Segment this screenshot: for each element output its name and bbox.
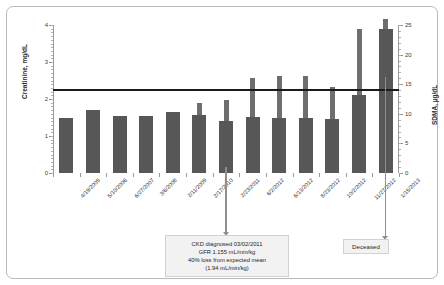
y-tick-minor-right [399, 43, 401, 44]
y-tick-minor-left [51, 103, 53, 104]
y-axis-right-title: SDMA, µg/dL [431, 85, 438, 125]
y-tick-minor-left [51, 44, 53, 45]
bar-creatinine [299, 118, 313, 174]
y-tick-minor-left [51, 143, 53, 144]
y-tick-minor-right [399, 31, 401, 32]
x-tick [159, 173, 160, 177]
y-tick-minor-right [399, 108, 401, 109]
y-tick-minor-left [51, 106, 53, 107]
y-tick-minor-right [399, 84, 401, 85]
y-tick-minor-left [51, 147, 53, 148]
x-tick [346, 173, 347, 177]
y-tick-minor-left [51, 166, 53, 167]
x-axis-label: 5/10/2006 [106, 177, 128, 199]
y-tick-minor-right [399, 61, 401, 62]
y-tick-label-right: 20 [405, 52, 425, 58]
y-tick-label-right: 5 [405, 140, 425, 146]
y-tick-minor-right [399, 161, 401, 162]
y-tick-minor-left [51, 55, 53, 56]
y-tick-minor-right [399, 167, 401, 168]
y-tick-label-right: 0 [405, 170, 425, 176]
y-tick-minor-right [399, 72, 401, 73]
y-tick-minor-right [399, 49, 401, 50]
bar-creatinine [86, 110, 100, 173]
x-tick [266, 173, 267, 177]
x-tick [293, 173, 294, 177]
annotation-deceased: Deceased [343, 239, 389, 254]
x-tick [372, 173, 373, 177]
y-tick-label-left: 0 [28, 170, 48, 176]
x-tick [399, 173, 400, 177]
y-tick-minor-left [51, 25, 53, 26]
y-tick-minor-left [51, 110, 53, 111]
bar-creatinine [272, 118, 286, 174]
y-tick-minor-left [51, 51, 53, 52]
x-tick [80, 173, 81, 177]
y-tick-minor-left [51, 58, 53, 59]
y-tick-minor-left [51, 77, 53, 78]
x-tick [133, 173, 134, 177]
bar-creatinine [192, 115, 206, 173]
x-axis-label: 3/6/2008 [159, 177, 179, 197]
x-tick [319, 173, 320, 177]
annotation-line: GFR 1.155 mL/min/kg [199, 248, 256, 256]
y-tick-minor-left [51, 69, 53, 70]
y-tick-minor-left [51, 36, 53, 37]
reference-line [53, 89, 399, 91]
chart-frame: SDMA increased 8 mo before creatinine Cr… [6, 6, 438, 279]
y-tick-label-left: 4 [28, 22, 48, 28]
y-axis-left-line [53, 25, 54, 173]
y-tick-minor-left [51, 73, 53, 74]
y-tick-minor-left [51, 95, 53, 96]
y-tick-minor-left [51, 32, 53, 33]
y-tick-minor-left [51, 99, 53, 100]
y-tick-minor-left [51, 66, 53, 67]
y-tick-minor-left [51, 136, 53, 137]
y-tick-minor-left [51, 29, 53, 30]
chart-screenshot: SDMA increased 8 mo before creatinine Cr… [0, 0, 444, 285]
y-tick-minor-left [51, 84, 53, 85]
y-tick-minor-right [399, 55, 401, 56]
x-axis-label: 2/23/2011 [239, 177, 261, 199]
x-tick [53, 173, 54, 177]
y-tick-minor-left [51, 169, 53, 170]
annotation-line: 40% loss from expected mean [188, 256, 266, 264]
y-axis-right-line [398, 25, 399, 173]
y-tick-label-right: 15 [405, 81, 425, 87]
y-tick-minor-left [51, 162, 53, 163]
annotation-arrow-line [385, 77, 386, 237]
y-tick-minor-right [399, 143, 401, 144]
y-tick-minor-left [51, 121, 53, 122]
y-tick-label-left: 2 [28, 96, 48, 102]
x-axis-label: 1/15/2013 [399, 177, 421, 199]
y-tick-minor-left [51, 151, 53, 152]
y-tick-minor-right [399, 149, 401, 150]
y-tick-minor-right [399, 25, 401, 26]
y-tick-minor-left [51, 62, 53, 63]
plot-area: 01234 0510152025 [53, 25, 399, 173]
x-axis-label: 6/2/2012 [265, 177, 285, 197]
y-tick-minor-right [399, 137, 401, 138]
x-axis-label: 10/2/2012 [346, 177, 368, 199]
y-tick-minor-right [399, 90, 401, 91]
bar-creatinine [325, 119, 339, 173]
bar-creatinine [246, 117, 260, 173]
y-tick-minor-left [51, 81, 53, 82]
y-tick-minor-right [399, 155, 401, 156]
y-tick-minor-left [51, 140, 53, 141]
bar-creatinine [219, 121, 233, 173]
y-tick-minor-right [399, 78, 401, 79]
y-tick-minor-left [51, 118, 53, 119]
y-axis-left-title: Creatinine, mg/dL [21, 44, 28, 99]
y-tick-minor-left [51, 129, 53, 130]
y-tick-label-left: 1 [28, 133, 48, 139]
x-tick [213, 173, 214, 177]
y-tick-minor-left [51, 114, 53, 115]
y-tick-label-right: 25 [405, 22, 425, 28]
x-axis-label: 2/11/2009 [186, 177, 208, 199]
y-tick-minor-left [51, 40, 53, 41]
y-tick-minor-left [51, 47, 53, 48]
y-tick-minor-right [399, 132, 401, 133]
x-axis-label: 4/19/2005 [80, 177, 102, 199]
x-axis-label: 2/17/2010 [213, 177, 235, 199]
